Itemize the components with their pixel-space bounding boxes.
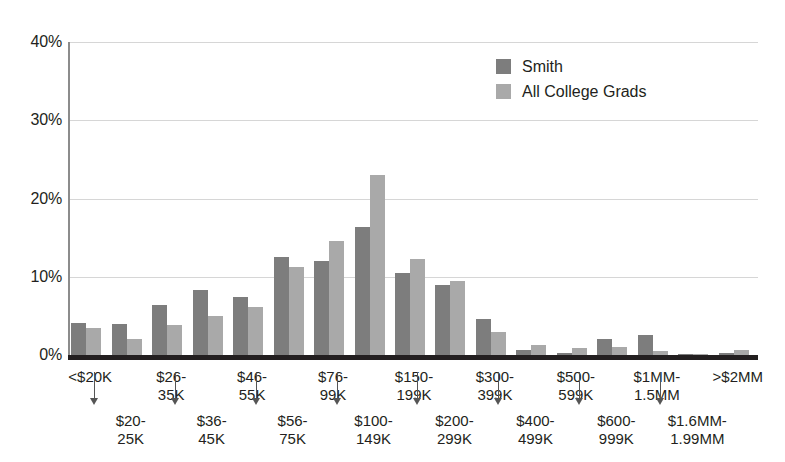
bar-group — [191, 42, 231, 355]
x-axis-labels: <$20K$20-25K$26-35K$36-45K$46-55K$56-75K… — [0, 360, 785, 462]
bar — [86, 328, 101, 355]
legend-swatch-icon — [496, 84, 511, 99]
y-tick-label: 10% — [6, 269, 62, 285]
arrow-stem — [94, 372, 95, 400]
bar — [410, 259, 425, 355]
legend-label: All College Grads — [522, 84, 647, 100]
label-pointer-arrow-icon — [493, 372, 504, 406]
arrow-stem — [660, 372, 661, 400]
bar-group — [718, 42, 758, 355]
bar — [71, 323, 86, 355]
bar — [233, 297, 248, 355]
bar — [597, 339, 612, 355]
bar — [127, 339, 142, 355]
bar — [329, 241, 344, 355]
bar — [572, 348, 587, 355]
bar — [638, 335, 653, 355]
y-tick: 20% — [0, 191, 62, 207]
arrow-head — [90, 398, 98, 405]
bar — [531, 345, 546, 355]
y-tick-label: 40% — [6, 34, 62, 50]
label-pointer-arrow-icon — [332, 372, 343, 406]
arrow-head — [171, 398, 179, 405]
arrow-head — [494, 398, 502, 405]
arrow-stem — [337, 372, 338, 400]
bar — [112, 324, 127, 355]
bar — [248, 307, 263, 355]
bar — [355, 227, 370, 355]
bar — [208, 316, 223, 355]
bar — [152, 305, 167, 355]
y-tick: 10% — [0, 269, 62, 285]
arrow-stem — [256, 372, 257, 400]
bar — [491, 332, 506, 355]
arrow-head — [333, 398, 341, 405]
bar-group — [394, 42, 434, 355]
bar — [450, 281, 465, 355]
label-pointer-arrow-icon — [655, 372, 666, 406]
legend-swatch-icon — [496, 59, 511, 74]
arrow-stem — [579, 372, 580, 400]
bar — [314, 261, 329, 355]
bar — [476, 319, 491, 355]
bar — [612, 347, 627, 355]
income-distribution-bar-chart: 0%10%20%30%40% SmithAll College Grads <$… — [0, 0, 785, 462]
arrow-stem — [498, 372, 499, 400]
bar-group — [151, 42, 191, 355]
legend-item[interactable]: Smith — [496, 54, 647, 79]
bar-group — [434, 42, 474, 355]
label-pointer-arrow-icon — [574, 372, 585, 406]
y-tick-label: 30% — [6, 112, 62, 128]
plot-area — [70, 42, 758, 355]
arrow-stem — [417, 372, 418, 400]
bar-group — [232, 42, 272, 355]
bar — [289, 267, 304, 355]
legend-item[interactable]: All College Grads — [496, 79, 647, 104]
bar — [435, 285, 450, 355]
bar-group — [70, 42, 110, 355]
bar — [193, 290, 208, 355]
arrow-head — [252, 398, 260, 405]
bar-group — [313, 42, 353, 355]
arrow-head — [413, 398, 421, 405]
legend-label: Smith — [522, 59, 563, 75]
arrow-head — [575, 398, 583, 405]
y-tick: 40% — [0, 34, 62, 50]
y-tick: 30% — [0, 112, 62, 128]
bar — [395, 273, 410, 355]
label-pointer-arrow-icon — [89, 372, 100, 406]
chart-legend: SmithAll College Grads — [496, 54, 647, 104]
label-pointer-arrow-icon — [412, 372, 423, 406]
x-axis-label: $1.6MM-1.99MM — [642, 412, 752, 448]
bar-group — [353, 42, 393, 355]
bar-group — [272, 42, 312, 355]
x-axis-label: >$2MM — [683, 368, 785, 386]
bar — [370, 175, 385, 355]
bar-group — [677, 42, 717, 355]
bar — [167, 325, 182, 355]
label-pointer-arrow-icon — [251, 372, 262, 406]
arrow-stem — [175, 372, 176, 400]
arrow-head — [656, 398, 664, 405]
y-tick-label: 20% — [6, 191, 62, 207]
bar-group — [110, 42, 150, 355]
bar — [274, 257, 289, 355]
label-pointer-arrow-icon — [170, 372, 181, 406]
